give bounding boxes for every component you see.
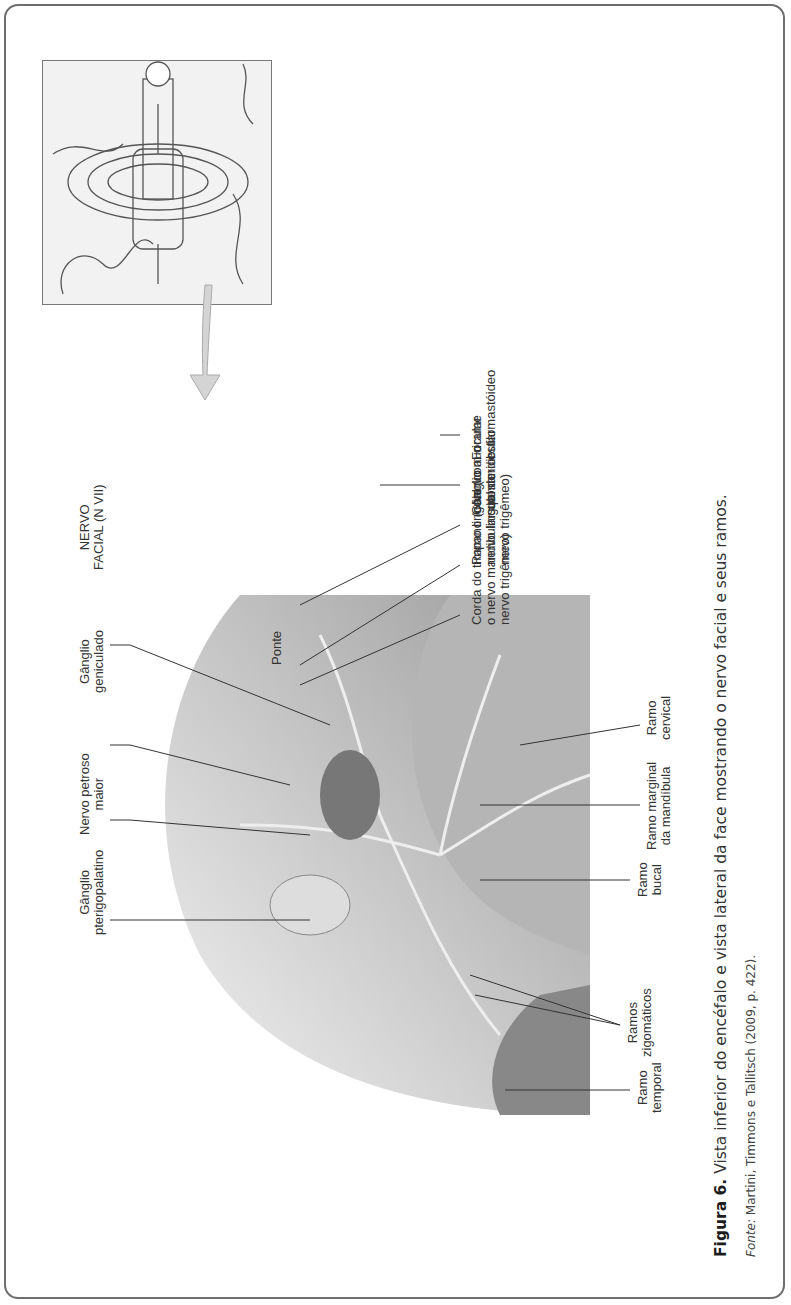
figure-caption: Figura 6. Vista inferior do encéfalo e v… (712, 494, 730, 1257)
source-label: Fonte: (744, 1219, 758, 1257)
label-ganglio-pterigopalatino: Gângliopterigopalatino (78, 850, 106, 935)
label-nervo-facial: NERVOFACIAL (N VII) (78, 485, 106, 570)
caption-text: Vista inferior do encéfalo e vista later… (712, 494, 730, 1179)
caption-label: Figura 6. (712, 1179, 730, 1257)
figure-source: Fonte: Martini, Timmons e Tallitsch (200… (744, 955, 758, 1257)
label-ramo-bucal: Ramobucal (636, 862, 664, 897)
label-ponte: Ponte (270, 631, 284, 665)
label-ganglio-submandibular: Gângliosubmandibular (470, 430, 498, 515)
label-ramo-cervical: Ramocervical (645, 696, 673, 740)
source-text: Martini, Timmons e Tallitsch (2009, p. 4… (744, 955, 758, 1219)
label-ganglio-geniculado: Gângliogeniculado (78, 630, 106, 693)
label-ramo-temporal: Ramotemporal (636, 1062, 664, 1113)
label-nervo-petroso: Nervo petrosomaior (78, 753, 106, 835)
leader-lines (0, 0, 791, 1305)
rotated-figure-page: Ramotemporal Ramoszigomáticos Ramobucal … (0, 0, 791, 1305)
label-ramos-zigomaticos: Ramoszigomáticos (626, 988, 654, 1057)
label-ramo-marginal: Ramo marginalda mandíbula (645, 762, 673, 850)
